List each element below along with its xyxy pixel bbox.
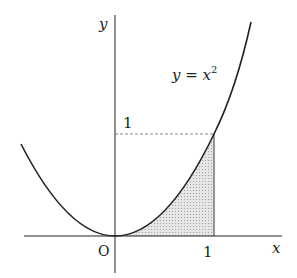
shaded-area (115, 134, 214, 236)
parabola-curve (21, 22, 251, 236)
y-tick-label: 1 (123, 114, 133, 132)
y-axis-label: y (98, 15, 108, 33)
x-axis-label: x (272, 239, 281, 257)
origin-label: O (98, 243, 109, 259)
x-tick-label: 1 (203, 243, 213, 261)
curve-label: y = x2 (171, 64, 217, 84)
curve-label-exponent: 2 (211, 64, 217, 75)
diagram-canvas: y x O 1 1 y = x2 (0, 0, 297, 278)
